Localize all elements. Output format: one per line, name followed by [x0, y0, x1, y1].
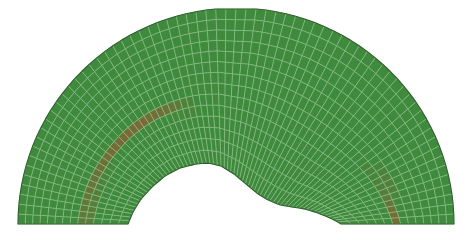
mesh-element: [423, 216, 432, 224]
mesh-element: [34, 197, 43, 207]
mesh-element: [436, 196, 445, 206]
mesh-element-group: [18, 9, 454, 224]
mesh-element: [216, 19, 226, 30]
mesh-element: [218, 61, 226, 73]
mesh-element: [225, 41, 234, 52]
mesh-element: [218, 72, 225, 84]
mesh-element: [216, 9, 226, 19]
mesh-element: [206, 9, 216, 20]
mesh-element: [217, 40, 226, 51]
mesh-element: [199, 41, 208, 52]
mesh-element: [225, 73, 232, 85]
mesh-element: [202, 62, 211, 73]
fea-mesh-svg: [0, 0, 472, 240]
mesh-element: [422, 207, 431, 216]
mesh-element: [445, 204, 454, 214]
mesh-element: [207, 19, 217, 30]
mesh-element: [216, 151, 221, 166]
mesh-element: [191, 42, 201, 54]
mesh-element: [235, 9, 246, 20]
mesh-element: [204, 83, 212, 94]
mesh-element: [225, 95, 231, 107]
mesh-element: [33, 206, 41, 216]
mesh-element: [234, 41, 243, 52]
mesh-element: [225, 84, 232, 96]
mesh-element: [219, 94, 225, 106]
mesh-element: [233, 63, 241, 75]
mesh-element: [233, 52, 242, 64]
mesh-element: [225, 106, 231, 119]
mesh-element: [235, 20, 245, 31]
mesh-element: [446, 214, 454, 224]
mesh-element: [215, 128, 221, 140]
mesh-element: [219, 105, 225, 118]
mesh-element: [197, 20, 207, 32]
mesh-element: [40, 207, 48, 216]
mesh-element: [62, 217, 70, 224]
mesh-element: [226, 30, 235, 41]
mesh-element: [213, 105, 219, 116]
mesh-element: [18, 214, 26, 224]
mesh-element: [55, 208, 64, 216]
mesh-element: [431, 215, 439, 224]
mesh-element: [226, 19, 236, 30]
mesh-element: [33, 215, 41, 224]
mesh-element: [85, 218, 94, 224]
mesh-element: [207, 105, 214, 116]
mesh-element: [244, 20, 255, 31]
mesh-element: [40, 215, 48, 224]
mesh-element: [41, 198, 50, 208]
mesh-element: [209, 51, 218, 62]
mesh-element: [220, 128, 225, 142]
mesh-element: [234, 30, 244, 41]
mesh-element: [245, 9, 256, 20]
mesh-element: [208, 40, 217, 51]
mesh-element: [47, 216, 55, 224]
mesh-element: [189, 32, 199, 44]
mesh-element: [207, 30, 217, 41]
mesh-element: [201, 51, 210, 62]
mesh-element: [198, 31, 208, 42]
mesh-element: [93, 218, 102, 224]
mesh-element: [220, 140, 224, 154]
mesh-element: [218, 83, 225, 95]
mesh-element: [226, 9, 236, 20]
mesh-element: [26, 195, 35, 205]
mesh-element: [212, 94, 219, 105]
mesh-element: [225, 62, 233, 74]
mesh-element: [78, 218, 87, 224]
mesh-element: [78, 211, 87, 218]
mesh-element: [232, 74, 240, 86]
mesh-element: [25, 214, 33, 224]
mesh-element: [215, 139, 220, 152]
mesh-element: [194, 63, 203, 74]
mesh-element: [219, 116, 224, 129]
mesh-element: [415, 216, 424, 224]
mesh-element: [225, 118, 230, 131]
mesh-element: [210, 61, 218, 72]
mesh-element: [211, 72, 219, 83]
mesh-element: [203, 72, 211, 83]
mesh-element: [70, 217, 79, 224]
mesh-visualization-canvas: [0, 0, 472, 240]
mesh-element: [63, 209, 72, 217]
mesh-element: [217, 30, 226, 41]
mesh-element: [407, 217, 416, 224]
mesh-element: [48, 208, 56, 217]
mesh-element: [217, 51, 225, 62]
mesh-element: [101, 219, 111, 224]
mesh-element: [225, 51, 233, 62]
mesh-element: [192, 52, 201, 63]
mesh-element: [206, 94, 213, 105]
mesh-element: [211, 83, 218, 94]
mesh-element: [214, 116, 220, 128]
mesh-element: [26, 205, 34, 215]
mesh-element: [18, 204, 26, 214]
mesh-element: [71, 210, 80, 217]
mesh-element: [437, 205, 446, 215]
mesh-element: [429, 206, 438, 215]
mesh-element: [55, 216, 63, 224]
mesh-element: [438, 215, 446, 224]
